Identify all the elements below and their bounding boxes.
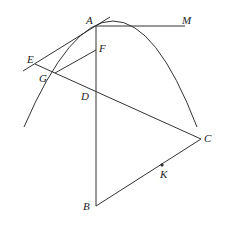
geometry-diagram: AMFEGDCKB (0, 0, 225, 226)
point-label-F: F (99, 43, 106, 54)
parabola-curve (24, 21, 197, 127)
segment-BC (96, 139, 201, 206)
point-label-K: K (160, 169, 167, 180)
point-label-B: B (83, 201, 90, 212)
segment-EC (35, 64, 201, 139)
point-K-dot (161, 164, 163, 166)
tangent-line (23, 17, 110, 71)
point-label-G: G (39, 73, 47, 84)
point-label-M: M (182, 15, 191, 26)
diagram-canvas (0, 0, 225, 226)
point-label-E: E (27, 54, 34, 65)
segment-GF (55, 50, 96, 73)
point-label-A: A (86, 15, 93, 26)
point-label-C: C (204, 133, 211, 144)
point-label-D: D (81, 91, 89, 102)
